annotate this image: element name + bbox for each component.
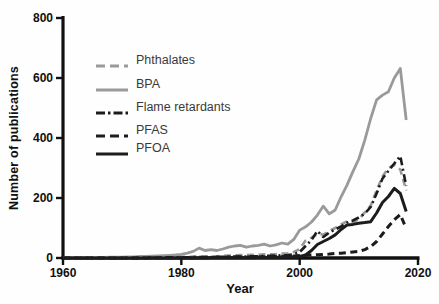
legend-label-pfoa: PFOA bbox=[136, 141, 170, 155]
legend-label-flame-retardants: Flame retardants bbox=[136, 100, 230, 114]
legend-line-sample-flame-retardants bbox=[96, 103, 128, 111]
x-tick-label-2000: 2000 bbox=[286, 266, 313, 280]
x-tick-label-1980: 1980 bbox=[168, 266, 195, 280]
x-tick-label-1960: 1960 bbox=[50, 266, 77, 280]
y-tick-label-400: 400 bbox=[33, 131, 53, 145]
legend-label-phthalates: Phthalates bbox=[136, 53, 195, 67]
series-line-pfoa bbox=[63, 188, 406, 258]
series-line-bpa bbox=[63, 68, 406, 257]
chart-canvas: 02004006008001960198020002020 bbox=[0, 0, 439, 304]
y-axis-title: Number of publications bbox=[7, 66, 21, 210]
y-tick-label-800: 800 bbox=[33, 11, 53, 25]
legend-line-sample-phthalates bbox=[96, 56, 128, 64]
legend-line-sample-pfoa bbox=[96, 144, 128, 152]
legend-item-phthalates: Phthalates bbox=[96, 52, 195, 68]
x-axis-title: Year bbox=[226, 281, 253, 296]
legend-item-flame-retardants: Flame retardants bbox=[96, 99, 230, 115]
x-tick-label-2020: 2020 bbox=[405, 266, 432, 280]
legend-item-bpa: BPA bbox=[96, 76, 160, 92]
series-line-flame-retardants bbox=[63, 156, 406, 258]
y-tick-label-0: 0 bbox=[46, 251, 53, 265]
y-tick-label-600: 600 bbox=[33, 71, 53, 85]
legend-item-pfas: PFAS bbox=[96, 122, 168, 138]
legend-line-sample-pfas bbox=[96, 126, 128, 134]
series-line-phthalates bbox=[63, 165, 406, 258]
publication-trends-chart: 02004006008001960198020002020 Number of … bbox=[0, 0, 439, 304]
y-tick-label-200: 200 bbox=[33, 191, 53, 205]
legend-line-sample-bpa bbox=[96, 80, 128, 88]
legend-label-pfas: PFAS bbox=[136, 123, 168, 137]
legend-label-bpa: BPA bbox=[136, 77, 160, 91]
legend-item-pfoa: PFOA bbox=[96, 140, 170, 156]
